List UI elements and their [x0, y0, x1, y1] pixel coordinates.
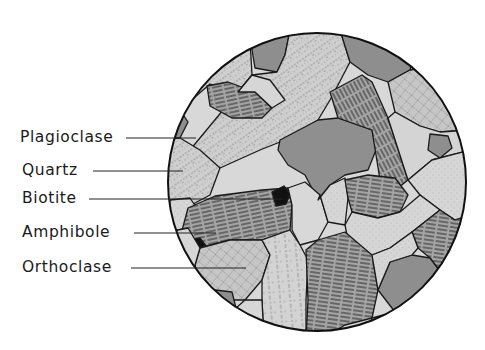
- label-biotite: Biotite: [22, 191, 77, 207]
- granite-thin-section-diagram: Plagioclase Quartz Biotite Amphibole Ort…: [0, 0, 485, 350]
- label-quartz: Quartz: [22, 163, 78, 179]
- field-of-view: [160, 25, 470, 340]
- label-orthoclase: Orthoclase: [22, 260, 112, 276]
- label-amphibole: Amphibole: [22, 225, 110, 241]
- label-plagioclase: Plagioclase: [20, 130, 113, 146]
